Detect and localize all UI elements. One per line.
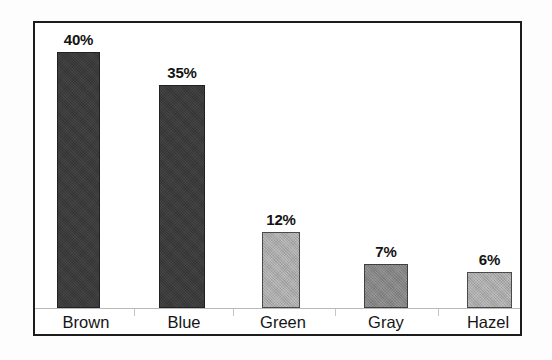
bar-gray xyxy=(364,264,408,308)
value-label-hazel: 6% xyxy=(467,252,512,267)
value-label-blue: 35% xyxy=(159,65,205,80)
category-label-hazel: Hazel xyxy=(443,310,533,334)
category-label-brown: Brown xyxy=(41,310,131,334)
category-label-green: Green xyxy=(238,310,328,334)
chart-frame: 40% 35% 12% 7% 6% Brown Blue Green xyxy=(33,21,522,336)
bar-blue xyxy=(159,85,205,308)
value-label-brown: 40% xyxy=(57,32,100,47)
category-separator-3 xyxy=(335,309,336,316)
category-separator-1 xyxy=(134,309,135,316)
value-label-gray: 7% xyxy=(364,244,408,259)
category-label-gray: Gray xyxy=(341,310,431,334)
plot-area: 40% 35% 12% 7% 6% Brown Blue Green xyxy=(35,23,520,334)
bar-brown xyxy=(57,52,100,308)
bar-hazel xyxy=(467,272,512,308)
category-separator-4 xyxy=(438,309,439,316)
scan-page-background: 40% 35% 12% 7% 6% Brown Blue Green xyxy=(0,0,552,360)
bar-green xyxy=(262,232,300,308)
category-separator-2 xyxy=(233,309,234,316)
category-label-strip: Brown Blue Green Gray Hazel xyxy=(35,309,520,334)
value-label-green: 12% xyxy=(257,212,305,227)
category-label-blue: Blue xyxy=(139,310,229,334)
